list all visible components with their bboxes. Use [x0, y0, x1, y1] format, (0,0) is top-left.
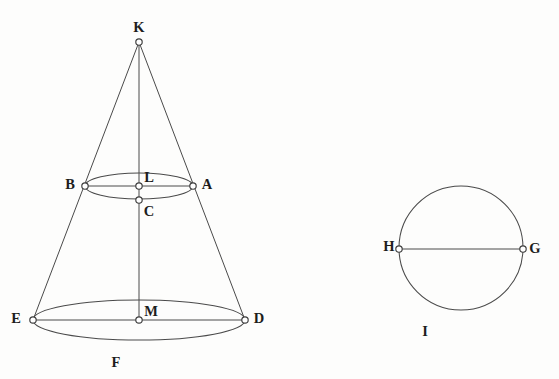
cone-group [30, 39, 248, 340]
point-A-dot [190, 183, 196, 189]
point-L-dot [136, 183, 142, 189]
label-G: G [529, 241, 540, 256]
edge-K-D [139, 42, 245, 320]
point-M-dot [136, 317, 142, 323]
geometry-canvas [0, 0, 559, 379]
label-M: M [144, 304, 158, 319]
label-K: K [133, 20, 144, 35]
point-C-dot [136, 197, 142, 203]
point-K-dot [136, 39, 142, 45]
point-E-dot [30, 317, 36, 323]
point-G-dot [520, 246, 526, 252]
label-F: F [112, 355, 121, 370]
label-H: H [383, 239, 394, 254]
standalone-circle [399, 186, 523, 310]
label-D: D [254, 311, 264, 326]
label-A: A [202, 177, 212, 192]
label-E: E [11, 311, 21, 326]
label-I: I [422, 324, 428, 339]
label-C: C [144, 204, 154, 219]
label-B: B [65, 177, 75, 192]
circle-group [396, 186, 526, 310]
label-L: L [144, 170, 154, 185]
point-D-dot [242, 317, 248, 323]
point-B-dot [82, 183, 88, 189]
geometry-figure: K B L A C E M D F H G I [0, 0, 559, 379]
edge-K-E [33, 42, 139, 320]
point-H-dot [396, 246, 402, 252]
